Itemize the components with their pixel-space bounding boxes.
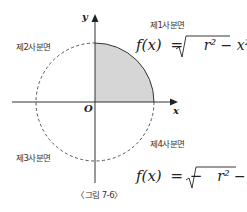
origin-label: O [84, 103, 93, 114]
equation-upper-radicand: r² − x² [204, 37, 247, 53]
equation-upper-eq: = [171, 36, 184, 54]
figure-caption: 〈그림 7-6〉 [76, 188, 123, 200]
equation-lower: f(x) = − r² − x² [136, 167, 247, 185]
equation-upper-lhs: f(x) [136, 36, 162, 54]
y-axis-arrow-icon [92, 14, 99, 22]
quadrant-4-label: 제4사분면 [150, 137, 185, 149]
equation-lower-lhs: f(x) [136, 167, 162, 185]
quadrant-2-label: 제2사분면 [16, 40, 51, 52]
equation-upper: f(x) = r² − x² [136, 36, 247, 54]
y-axis-label: y [82, 11, 88, 22]
quadrant-1-label: 제1사분면 [150, 18, 185, 30]
equation-lower-eq: = [171, 167, 184, 185]
equation-lower-neg: − [190, 167, 203, 185]
x-axis-label: x [173, 105, 179, 116]
quadrant-3-label: 제3사분면 [16, 151, 51, 163]
equation-lower-radicand: r² − x² [217, 168, 247, 184]
